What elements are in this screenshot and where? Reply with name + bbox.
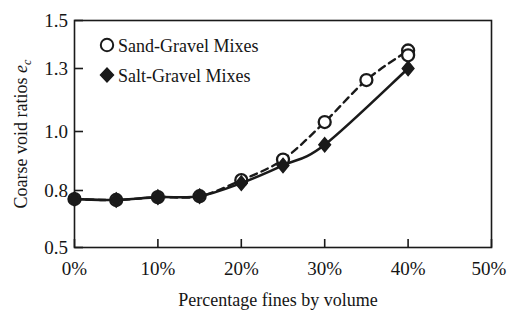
- x-axis-ticks: [75, 239, 492, 248]
- y-axis-title-subscript: c: [20, 59, 34, 65]
- x-tick-label-30: 30%: [307, 258, 342, 279]
- y-axis-title-main: Coarse void ratios: [11, 73, 31, 208]
- y-tick-label-1.0: 1.0: [44, 121, 68, 142]
- legend-marker-open-circle-icon: [101, 39, 113, 51]
- y-tick-labels: 1.5 1.3 1.0 0.8 0.5: [44, 10, 68, 258]
- y-tick-label-1.5: 1.5: [44, 10, 68, 31]
- legend-label-salt-gravel: Salt-Gravel Mixes: [118, 66, 250, 86]
- y-tick-label-0.5: 0.5: [44, 237, 68, 258]
- data-point-sand-gravel-mixes-35pct: [360, 74, 372, 86]
- x-tick-label-40: 40%: [391, 258, 426, 279]
- chart-canvas: 1.5 1.3 1.0 0.8 0.5 0% 10% 20% 30% 40% 5…: [0, 0, 509, 320]
- x-axis-title: Percentage fines by volume: [178, 290, 377, 310]
- legend-label-sand-gravel: Sand-Gravel Mixes: [118, 36, 258, 56]
- x-tick-label-50: 50%: [472, 258, 507, 279]
- data-point-sand-gravel-mixes-40pct-replicate: [402, 49, 414, 61]
- y-axis-ticks: [75, 21, 84, 248]
- x-tick-label-0: 0%: [62, 258, 88, 279]
- svg-text:Coarse void ratios ec: Coarse void ratios ec: [11, 59, 34, 208]
- y-axis-title: Coarse void ratios ec: [11, 59, 34, 208]
- y-tick-label-1.3: 1.3: [44, 58, 68, 79]
- x-tick-labels: 0% 10% 20% 30% 40% 50%: [62, 258, 507, 279]
- chart-legend: Sand-Gravel Mixes Salt-Gravel Mixes: [100, 36, 258, 86]
- x-tick-label-10: 10%: [140, 258, 175, 279]
- x-tick-label-20: 20%: [224, 258, 259, 279]
- chart-figure: 1.5 1.3 1.0 0.8 0.5 0% 10% 20% 30% 40% 5…: [0, 0, 509, 320]
- legend-marker-filled-diamond-icon: [100, 68, 113, 82]
- y-tick-label-0.8: 0.8: [44, 180, 68, 201]
- data-point-salt-gravel-mixes-30pct: [319, 138, 331, 152]
- data-point-sand-gravel-mixes-30pct: [319, 116, 331, 128]
- y-axis-title-symbol: e: [11, 65, 31, 73]
